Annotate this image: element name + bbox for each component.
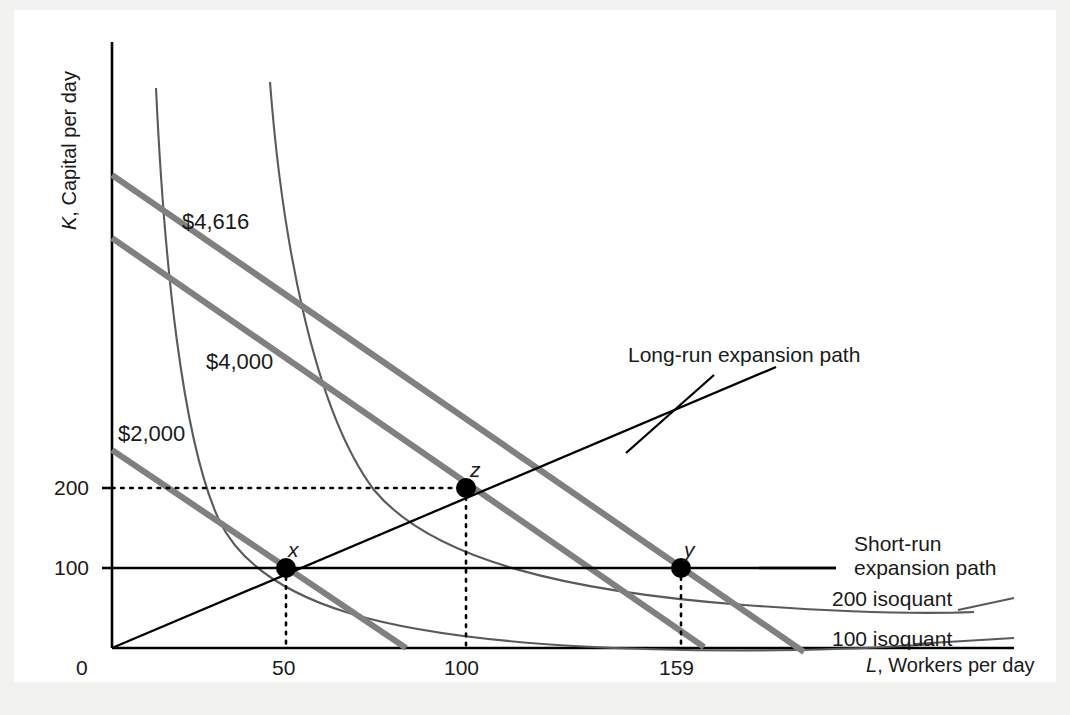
isocost-line-2000 [112,450,406,648]
short-run-expansion-path-label-line1: Short-run [854,532,996,556]
isoquant-200-label: 200 isoquant [832,587,952,611]
data-point-label-x: x [288,538,299,562]
isoquant-100-label: 100 isoquant [832,627,952,651]
isocost-label-4000: $4,000 [206,350,273,375]
y-tick-label-100: 100 [54,556,89,580]
x-axis-title-text: , Workers per day [877,654,1034,676]
short-run-expansion-path-label: Short-run expansion path [854,532,996,579]
figure-page: K, Capital per day L, Workers per day 0 … [0,0,1070,715]
leader-long-run-path [626,375,714,453]
long-run-expansion-path-label: Long-run expansion path [628,343,860,367]
y-axis-title-symbol: K [58,217,80,230]
chart-figure: K, Capital per day L, Workers per day 0 … [14,10,1056,682]
y-axis-title-text: , Capital per day [58,71,80,217]
isocost-label-2000: $2,000 [118,422,185,447]
y-axis-title: K, Capital per day [58,71,80,230]
x-tick-label-100: 100 [444,656,479,680]
isoquant-isocost-plot [14,10,1056,682]
isocost-line-4616 [112,175,804,652]
y-tick-label-200: 200 [54,476,89,500]
isocost-label-4616: $4,616 [182,210,249,235]
leader-isoquant-200 [958,598,1014,610]
x-tick-label-159: 159 [659,656,694,680]
isocost-line-4000 [112,238,704,647]
x-tick-label-50: 50 [272,656,295,680]
data-point-label-z: z [470,458,481,482]
x-axis-title-symbol: L [866,654,877,676]
data-point-label-y: y [684,538,695,562]
x-axis-title: L, Workers per day [866,654,1035,676]
origin-tick-label: 0 [76,656,88,680]
short-run-expansion-path-label-line2: expansion path [854,556,996,580]
